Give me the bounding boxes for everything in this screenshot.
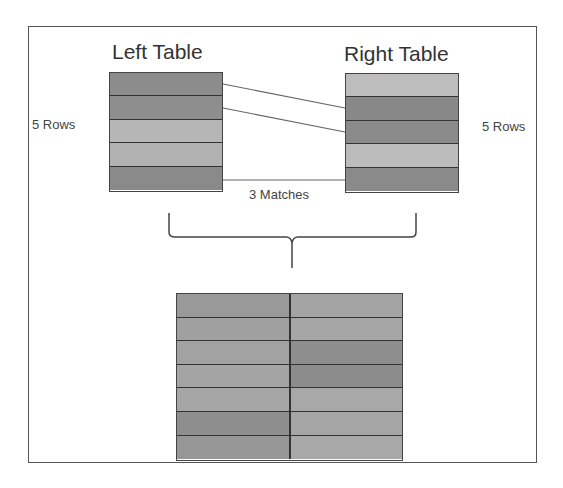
table-cell [291, 318, 403, 341]
table-cell [291, 412, 403, 435]
table-cell [177, 318, 291, 341]
table-cell [291, 341, 403, 364]
table-cell [291, 365, 403, 388]
brace-icon [169, 213, 416, 268]
table-row [177, 388, 402, 412]
table-cell [291, 294, 403, 317]
table-cell [177, 294, 291, 317]
table-row [177, 436, 402, 460]
match-line [223, 108, 345, 132]
table-cell [177, 365, 291, 388]
table-row [177, 365, 402, 389]
result-table [176, 293, 403, 461]
table-cell [177, 412, 291, 435]
table-row [177, 318, 402, 342]
table-cell [177, 388, 291, 411]
table-row [177, 412, 402, 436]
table-cell [177, 341, 291, 364]
table-cell [291, 436, 403, 460]
matches-label: 3 Matches [249, 187, 309, 202]
table-row [177, 294, 402, 318]
table-cell [177, 436, 291, 460]
table-row [177, 341, 402, 365]
match-line [223, 84, 345, 108]
table-cell [291, 388, 403, 411]
